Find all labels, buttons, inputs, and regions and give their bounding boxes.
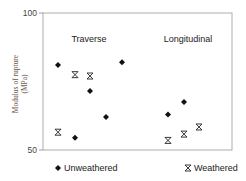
scatter-chart: 100 50 Modulus of rupture (MPa) Traverse… (0, 0, 246, 181)
group-label-traverse: Traverse (71, 34, 106, 44)
diamond-icon (55, 165, 61, 171)
legend: Unweathered Weathered (55, 163, 238, 173)
x-bar-icon (185, 165, 191, 171)
y-axis-label: Modulus of rupture (MPa) (11, 54, 29, 113)
legend-unweathered-label: Unweathered (64, 163, 118, 173)
y-tick-label-50: 50 (28, 145, 38, 155)
y-axis-label-line2: (MPa) (20, 74, 29, 94)
legend-weathered-label: Weathered (194, 163, 238, 173)
y-tick-label-100: 100 (23, 8, 37, 18)
group-label-longitudinal: Longitudinal (164, 34, 213, 44)
y-axis-label-line1: Modulus of rupture (11, 54, 20, 113)
